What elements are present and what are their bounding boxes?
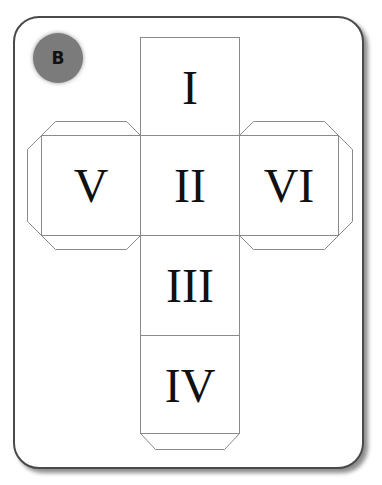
face-center-label: II (140, 135, 240, 235)
face-left-label: V (41, 135, 141, 235)
bottom-tab (141, 434, 240, 450)
face-top-label: I (140, 37, 240, 137)
right-bottom-tab (240, 236, 339, 250)
face-below-center-label: III (140, 235, 240, 335)
left-side-tab (28, 136, 42, 236)
right-top-tab (240, 122, 339, 136)
face-right-label: VI (239, 135, 339, 235)
right-side-tab (339, 136, 353, 236)
face-bottom-label: IV (140, 335, 240, 435)
left-top-tab (42, 122, 141, 136)
left-bottom-tab (42, 236, 141, 250)
